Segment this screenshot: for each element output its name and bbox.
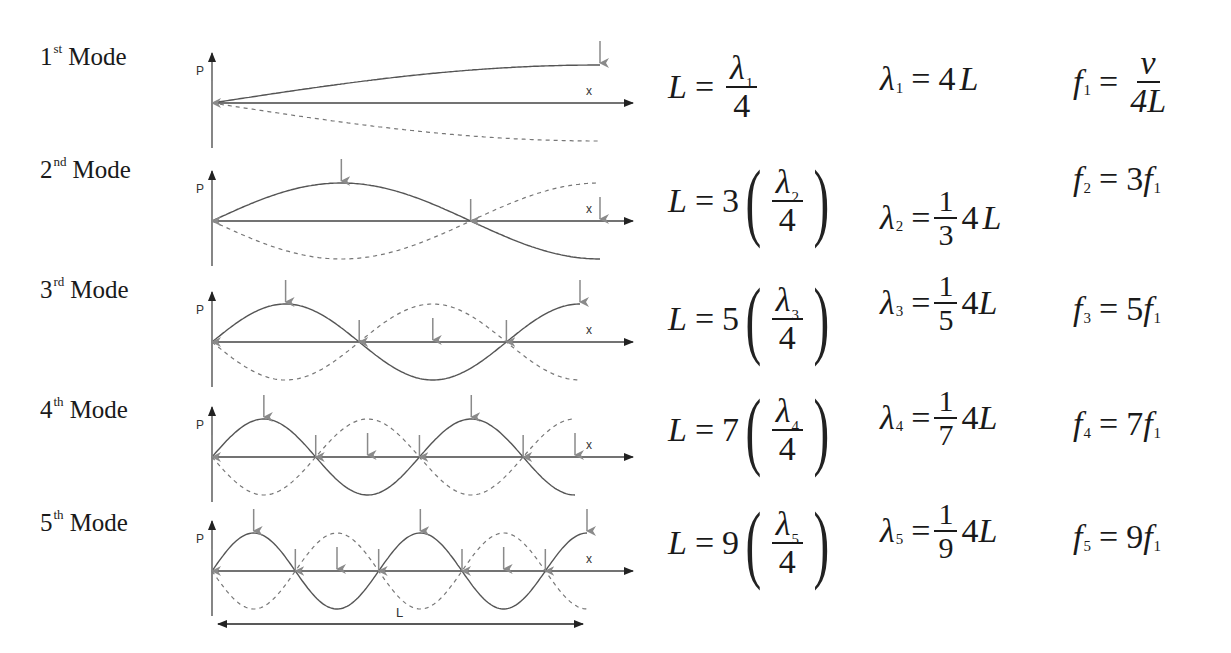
length-dimension: L (218, 605, 583, 624)
equals: = (911, 284, 930, 322)
var-L: L (668, 182, 687, 220)
lambda: λ (730, 49, 745, 86)
eq-length-1: L= λ14 (668, 50, 761, 123)
fraction: λ34 (772, 282, 803, 355)
equals: = (1099, 63, 1118, 101)
lambda: λ (776, 281, 791, 318)
var-L: L (978, 512, 997, 550)
var-f: f (1143, 160, 1152, 198)
coefficient: 5 (1126, 290, 1143, 328)
eq-wavelength-4: λ4= 174L (880, 385, 997, 450)
var-L: L (668, 524, 687, 562)
denominator: 5 (938, 304, 953, 336)
lambda: λ (880, 399, 895, 437)
var-f: f (1073, 518, 1082, 556)
equals: = (1099, 405, 1118, 443)
p-axis-label: P (196, 64, 204, 78)
left-paren: ( (746, 158, 762, 244)
p-axis-label: P (196, 303, 204, 317)
denominator: 4 (779, 431, 796, 467)
subscript: 2 (1083, 180, 1091, 197)
subscript: 5 (896, 531, 904, 548)
equals: = (695, 300, 714, 338)
factor: 4 (961, 199, 978, 237)
equals: = (695, 68, 714, 106)
var-f: f (1073, 405, 1082, 443)
eq-frequency-4: f4=7f1 (1073, 405, 1161, 443)
subscript: 1 (1154, 310, 1162, 327)
x-axis-label: x (586, 84, 592, 98)
lambda: λ (880, 60, 895, 98)
subscript: 1 (1154, 425, 1162, 442)
equals: = (911, 399, 930, 437)
x-axis-label: x (586, 323, 592, 337)
pressure-wave-solid (212, 65, 600, 103)
equals: = (911, 199, 930, 237)
factor: 4 (961, 512, 978, 550)
factor: 4 (938, 60, 955, 98)
lambda: λ (776, 163, 791, 200)
factor: 4 (961, 284, 978, 322)
equals: = (1099, 160, 1118, 198)
equals: = (695, 411, 714, 449)
coefficient: 7 (1126, 405, 1143, 443)
subscript: 4 (896, 418, 904, 435)
fraction: 19 (934, 498, 957, 563)
subscript: 3 (791, 307, 799, 323)
eq-frequency-2: f2=3f1 (1073, 160, 1161, 198)
wave-panel-3: Px (196, 280, 633, 387)
denominator: 4L (1130, 83, 1166, 119)
fraction: λ54 (772, 506, 803, 579)
coefficient: 5 (722, 300, 739, 338)
eq-frequency-3: f3=5f1 (1073, 290, 1161, 328)
wave-panel-5: Px (196, 509, 633, 616)
equals: = (1099, 290, 1118, 328)
var-f: f (1073, 160, 1082, 198)
lambda: λ (776, 505, 791, 542)
subscript: 1 (746, 75, 754, 91)
denominator: 4 (733, 88, 750, 124)
p-axis-label: P (196, 418, 204, 432)
x-axis-label: x (586, 438, 592, 452)
eq-length-4: L=7 ( λ44 ) (668, 387, 836, 473)
right-paren: ) (813, 387, 829, 473)
numerator: v (1137, 45, 1160, 83)
var-L: L (668, 300, 687, 338)
var-f: f (1073, 290, 1082, 328)
lambda: λ (880, 284, 895, 322)
var-L: L (668, 68, 687, 106)
subscript: 4 (791, 418, 799, 434)
coefficient: 7 (722, 411, 739, 449)
var-f: f (1143, 405, 1152, 443)
equals: = (911, 512, 930, 550)
denominator: 4 (779, 544, 796, 580)
standing-wave-diagrams: PxPxPxPxPx L (0, 0, 1231, 653)
subscript: 2 (791, 189, 799, 205)
subscript: 5 (791, 531, 799, 547)
right-paren: ) (813, 276, 829, 362)
var-L: L (978, 399, 997, 437)
eq-length-5: L=9 ( λ54 ) (668, 500, 836, 586)
factor: 4 (961, 399, 978, 437)
subscript: 3 (896, 303, 904, 320)
left-paren: ( (746, 276, 762, 362)
fraction: 17 (934, 385, 957, 450)
fraction: 15 (934, 270, 957, 335)
left-paren: ( (746, 500, 762, 586)
denominator: 9 (938, 532, 953, 564)
denominator: 4 (779, 320, 796, 356)
p-axis-label: P (196, 532, 204, 546)
coefficient: 9 (1126, 518, 1143, 556)
numerator: 1 (934, 498, 957, 532)
eq-frequency-1: f1= v4L (1073, 45, 1170, 118)
numerator: 1 (934, 270, 957, 304)
denominator: 7 (938, 419, 953, 451)
coefficient: 9 (722, 524, 739, 562)
eq-length-3: L=5 ( λ34 ) (668, 276, 836, 362)
subscript: 2 (896, 218, 904, 235)
subscript: 1 (1083, 82, 1091, 99)
var-f: f (1073, 63, 1082, 101)
var-L: L (668, 411, 687, 449)
denominator: 4 (779, 202, 796, 238)
denominator: 3 (938, 219, 953, 251)
